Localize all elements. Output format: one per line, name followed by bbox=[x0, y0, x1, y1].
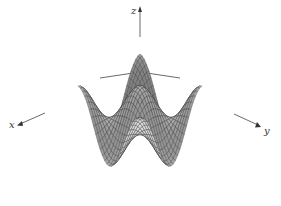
x-axis-arrow-icon bbox=[17, 121, 23, 126]
y-axis bbox=[234, 114, 258, 125]
y-axis-arrow-icon bbox=[255, 122, 261, 128]
z-axis-arrow-icon bbox=[138, 6, 142, 12]
y-axis-label: y bbox=[263, 125, 270, 136]
surface-facet bbox=[138, 117, 142, 118]
x-axis bbox=[20, 113, 45, 124]
surface-plot: z x y bbox=[0, 0, 281, 206]
z-axis-label: z bbox=[130, 5, 137, 16]
surface-mesh bbox=[78, 54, 202, 166]
x-axis-label: x bbox=[9, 119, 15, 130]
